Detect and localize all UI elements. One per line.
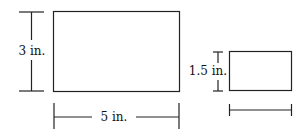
small-width-dimension: [230, 104, 292, 116]
rectangles-diagram: 3 in. 5 in. 1.5 in.: [0, 0, 308, 136]
small-height-label: 1.5 in.: [189, 64, 227, 78]
large-height-label: 3 in.: [19, 44, 46, 58]
large-width-label: 5 in.: [101, 110, 128, 124]
small-rectangle: [230, 52, 292, 91]
large-rectangle: [54, 12, 180, 92]
